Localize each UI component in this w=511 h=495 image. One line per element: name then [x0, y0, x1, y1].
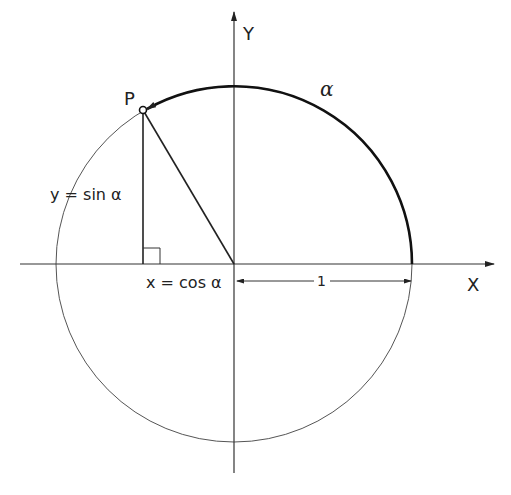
y-axis-label: Y — [242, 23, 255, 44]
angle-alpha-label: α — [320, 77, 334, 101]
right-angle-marker — [143, 248, 160, 264]
point-p-label: P — [124, 88, 135, 109]
x-axis-label: X — [467, 274, 479, 295]
radius-length-label: 1 — [317, 273, 326, 289]
sine-label: y = sin α — [50, 185, 122, 204]
radius-line — [143, 110, 234, 264]
point-p-marker — [140, 107, 147, 114]
alpha-arc — [147, 86, 412, 264]
unit-circle-diagram: Y X P α y = sin α x = cos α 1 — [0, 0, 511, 495]
cosine-label: x = cos α — [146, 273, 222, 292]
